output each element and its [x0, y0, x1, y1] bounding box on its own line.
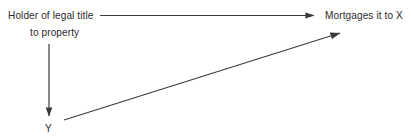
diagram-canvas: Holder of legal title to property Mortga… [0, 0, 411, 138]
mortgages-label: Mortgages it to X [325, 9, 403, 21]
y-node-label: Y [45, 122, 52, 134]
arrow-y-to-mortgages [64, 33, 340, 120]
holder-label-line1: Holder of legal title [8, 9, 94, 21]
holder-label-line2: to property [30, 26, 79, 38]
